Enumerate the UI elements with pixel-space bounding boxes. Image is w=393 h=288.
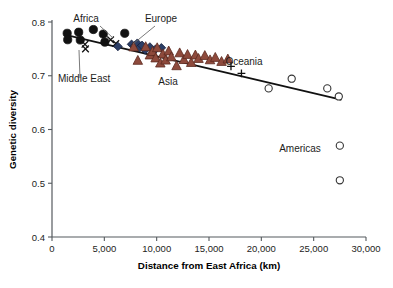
y-tick-label: 0.6	[32, 124, 45, 135]
annotation-label-asia: Asia	[158, 76, 178, 87]
y-tick-label: 0.5	[32, 178, 45, 189]
annotation-label-middle-east: Middle East	[58, 73, 110, 84]
chart-canvas: 05,00010,00015,00020,00025,00030,0000.40…	[0, 0, 393, 288]
x-tick-label: 25,000	[299, 243, 328, 254]
x-tick-label: 10,000	[142, 243, 171, 254]
marker-open-circle	[265, 85, 272, 92]
y-tick-label: 0.7	[32, 70, 45, 81]
x-tick-label: 0	[49, 243, 54, 254]
marker-open-circle	[335, 93, 342, 100]
y-tick-label: 0.8	[32, 17, 45, 28]
annotation-label-oceania: Oceania	[225, 56, 263, 67]
marker-open-circle	[288, 75, 295, 82]
marker-open-circle	[324, 85, 331, 92]
marker-open-circle	[336, 142, 343, 149]
marker-circle	[64, 36, 72, 44]
annotation-label-africa: Africa	[73, 13, 99, 24]
annotation-label-europe: Europe	[145, 13, 178, 24]
x-tick-label: 15,000	[194, 243, 223, 254]
marker-circle	[75, 28, 83, 36]
x-tick-label: 5,000	[92, 243, 116, 254]
genetic-diversity-scatter-figure: 05,00010,00015,00020,00025,00030,0000.40…	[0, 0, 393, 288]
x-tick-label: 20,000	[247, 243, 276, 254]
y-tick-label: 0.4	[32, 232, 45, 243]
x-axis-title: Distance from East Africa (km)	[138, 260, 280, 271]
annotation-label-americas: Americas	[279, 143, 321, 154]
x-tick-label: 30,000	[351, 243, 380, 254]
marker-open-circle	[336, 177, 343, 184]
y-axis-title: Genetic diversity	[7, 89, 18, 169]
marker-circle	[121, 29, 129, 37]
marker-circle	[89, 25, 97, 33]
